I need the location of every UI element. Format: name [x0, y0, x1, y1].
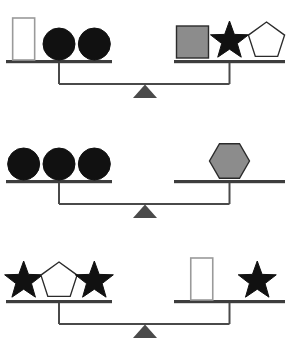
square-shape: [177, 26, 209, 58]
pentagon-shape: [248, 22, 284, 56]
fulcrum-triangle: [133, 85, 157, 99]
circle-shape: [43, 148, 75, 180]
balance-scale: [0, 240, 289, 360]
circle-shape: [8, 148, 40, 180]
pentagon-shape: [41, 262, 77, 296]
balance-scale: [0, 120, 289, 240]
star-shape: [5, 261, 43, 297]
hexagon-shape: [210, 144, 250, 179]
circle-shape: [78, 28, 110, 60]
fulcrum-triangle: [133, 205, 157, 219]
balance-scale: [0, 0, 289, 120]
balance-svg: [0, 0, 289, 120]
rectangle-shape: [191, 258, 213, 300]
rectangle-shape: [13, 18, 35, 60]
balance-svg: [0, 240, 289, 360]
right-pan-bar: [174, 60, 285, 63]
star-shape: [210, 21, 248, 57]
circle-shape: [78, 148, 110, 180]
circle-shape: [43, 28, 75, 60]
left-pan-bar: [6, 300, 112, 303]
star-shape: [238, 261, 276, 297]
right-pan-bar: [174, 180, 285, 183]
fulcrum-triangle: [133, 325, 157, 339]
star-shape: [75, 261, 113, 297]
balance-svg: [0, 120, 289, 240]
